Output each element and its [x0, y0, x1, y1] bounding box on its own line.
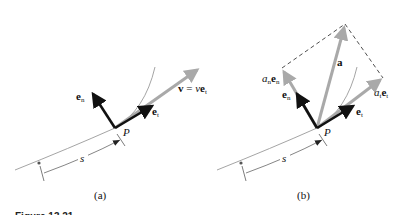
dashed-edge-tangent — [345, 24, 383, 78]
figure-canvas: s en et v = vet P (a) s — [0, 0, 401, 215]
unit-normal-vector — [93, 94, 115, 128]
panel-a: s en et v = vet P (a) — [15, 67, 207, 202]
arc-length-label: s — [80, 152, 84, 164]
arc-length-label: s — [282, 152, 286, 164]
point-p-label: P — [323, 126, 331, 138]
reference-point — [239, 161, 242, 164]
point-p-label: P — [122, 126, 130, 138]
unit-tangent-vector — [115, 106, 152, 128]
unit-normal-label: en — [282, 88, 291, 102]
tick-start — [40, 166, 44, 181]
unit-normal-label: en — [76, 90, 85, 104]
normal-component-label: anen — [262, 72, 280, 86]
figure-caption: Figure 13.21 — [15, 211, 74, 215]
tick-start — [242, 166, 246, 181]
velocity-label: v = vet — [178, 82, 207, 96]
reference-point — [37, 161, 40, 164]
panel-b: s en et a anen atet P (b) — [217, 24, 388, 202]
unit-normal-vector — [297, 94, 317, 128]
acceleration-label: a — [337, 56, 343, 68]
unit-tangent-label: et — [356, 105, 363, 119]
panel-b-label: (b) — [297, 189, 310, 202]
unit-tangent-label: et — [152, 105, 159, 119]
tangential-component-label: atet — [374, 86, 388, 100]
panel-a-label: (a) — [94, 189, 107, 202]
